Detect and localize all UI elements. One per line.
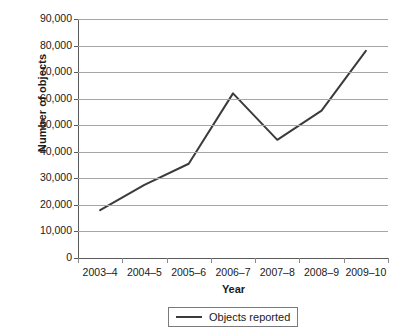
y-axis-tick-label: 50,000 <box>10 119 72 129</box>
gridline <box>78 152 388 153</box>
series-line-objects-reported <box>100 51 366 210</box>
x-axis-tick-mark <box>344 258 345 263</box>
line-chart-figure: Number of objects 90,00080,00070,00060,0… <box>0 0 405 336</box>
x-axis-tick-mark <box>167 258 168 263</box>
gridline <box>78 46 388 47</box>
chart-legend: Objects reported <box>168 307 298 327</box>
y-axis-tick-label: 20,000 <box>10 199 72 209</box>
gridline <box>78 125 388 126</box>
x-axis-line <box>78 258 389 259</box>
y-axis-tick-label: 0 <box>10 252 72 262</box>
x-axis-tick-mark <box>211 258 212 263</box>
y-axis-tick-label: 90,000 <box>10 13 72 23</box>
x-axis-tick-mark <box>78 258 79 263</box>
x-axis-tick-label: 2009–10 <box>336 266 396 278</box>
legend-label-objects-reported: Objects reported <box>209 311 290 323</box>
gridline <box>78 178 388 179</box>
gridline <box>78 205 388 206</box>
gridline <box>78 231 388 232</box>
y-axis-tick-label: 60,000 <box>10 93 72 103</box>
y-axis-tick-label: 40,000 <box>10 146 72 156</box>
y-axis-tick-labels: 90,00080,00070,00060,00050,00040,00030,0… <box>0 0 72 240</box>
x-axis-tick-mark <box>299 258 300 263</box>
x-axis-title: Year <box>78 283 389 295</box>
data-series-objects-reported <box>78 19 388 258</box>
x-axis-tick-mark <box>122 258 123 263</box>
y-axis-tick-label: 70,000 <box>10 66 72 76</box>
y-axis-tick-label: 80,000 <box>10 40 72 50</box>
gridline <box>78 72 388 73</box>
x-axis-tick-mark <box>388 258 389 263</box>
gridline <box>78 19 388 20</box>
y-axis-tick-label: 30,000 <box>10 172 72 182</box>
gridline <box>78 99 388 100</box>
x-axis-tick-mark <box>255 258 256 263</box>
legend-line-swatch-icon <box>176 316 202 318</box>
plot-area <box>78 19 388 258</box>
y-axis-tick-label: 10,000 <box>10 225 72 235</box>
